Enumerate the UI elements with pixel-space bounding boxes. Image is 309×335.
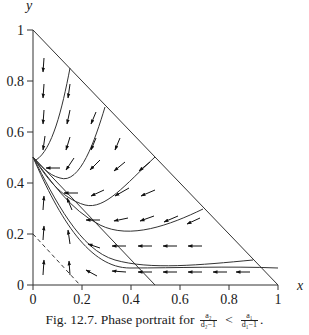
- y-tick-0.2: 0.2: [7, 227, 25, 242]
- figure-caption: Fig. 12.7. Phase portrait for a₂d₂−1<a₁d…: [0, 312, 309, 329]
- caption-end: .: [260, 312, 263, 327]
- vector-field: [43, 58, 250, 276]
- trajectory-1: [36, 68, 70, 160]
- x-tick-1: 1: [275, 292, 282, 307]
- rhs-fraction: a₁d₁−1: [241, 312, 258, 329]
- y-tick-1: 1: [17, 23, 24, 38]
- x-tick-0.8: 0.8: [220, 292, 238, 307]
- y-tick-0.6: 0.6: [7, 125, 25, 140]
- x-tick-0.2: 0.2: [73, 292, 91, 307]
- arrow-icon: [43, 58, 44, 72]
- rhs-denominator: d₁−1: [241, 321, 258, 329]
- trajectory-5: [33, 157, 253, 266]
- lhs-fraction: a₂d₂−1: [200, 312, 217, 329]
- y-tick-0.4: 0.4: [7, 176, 25, 191]
- caption-relation: <: [225, 312, 233, 327]
- isocline-line: [33, 157, 155, 285]
- phase-portrait-figure: 0 0.2 0.4 0.6 0.8 1 0 0.2 0.4 0.6 0.8 1 …: [0, 0, 309, 335]
- y-axis-label: y: [24, 0, 33, 13]
- x-tick-0: 0: [30, 292, 37, 307]
- y-tick-0.8: 0.8: [7, 74, 25, 89]
- y-tick-0: 0: [17, 278, 24, 293]
- lhs-denominator: d₂−1: [200, 321, 217, 329]
- trajectories: [33, 68, 278, 268]
- dashed-separatrix: [33, 234, 80, 285]
- x-axis-label: x: [296, 278, 304, 293]
- caption-text: Phase portrait for: [101, 312, 195, 327]
- x-tick-0.6: 0.6: [171, 292, 189, 307]
- caption-prefix: Fig. 12.7.: [46, 312, 98, 327]
- trajectory-6: [33, 157, 278, 268]
- x-tick-0.4: 0.4: [122, 292, 140, 307]
